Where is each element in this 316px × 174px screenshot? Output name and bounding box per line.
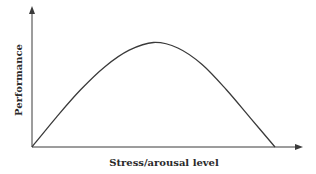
performance-stress-chart: Stress/arousal level Performance: [0, 0, 316, 174]
x-axis-label: Stress/arousal level: [109, 157, 219, 168]
x-axis-arrow-icon: [295, 144, 303, 150]
y-axis-arrow-icon: [29, 6, 35, 14]
performance-curve: [32, 42, 275, 147]
y-axis-label: Performance: [13, 44, 24, 116]
chart-canvas: Stress/arousal level Performance: [0, 0, 316, 174]
